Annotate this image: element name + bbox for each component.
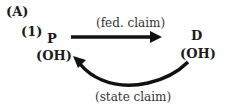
state-claim-arrow-icon	[73, 56, 188, 85]
fed-claim-arrow-icon	[71, 31, 162, 43]
arrows-layer	[0, 0, 231, 108]
